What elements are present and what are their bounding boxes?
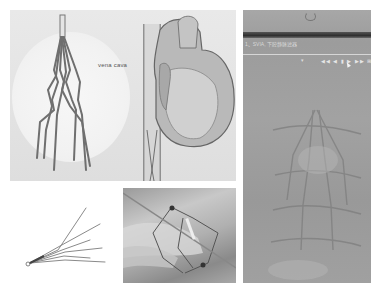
cone-filter-drawing — [10, 190, 120, 280]
filter-drawing-panel — [10, 190, 120, 280]
hand-holding-filter — [123, 188, 236, 283]
spine-and-filter-shadow — [243, 10, 371, 283]
device-photo-panel — [123, 188, 236, 283]
vena-cava-label: vena cava — [98, 62, 127, 68]
xray-panel: 1、SVIA, 下腔静脉滤器 ▾ ◀◀ ◀ ▮ ▶ ▶▶ ⊞ — [243, 10, 371, 283]
filter-and-heart-drawing — [10, 10, 236, 181]
illustration-panel: vena cava — [10, 10, 236, 181]
